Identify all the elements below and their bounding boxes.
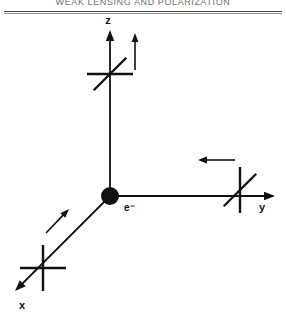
arrow-near-y-head xyxy=(198,157,207,164)
arrow-near-y xyxy=(198,157,235,164)
cross-on-x xyxy=(20,245,66,291)
field-arrows xyxy=(46,33,235,233)
axis-y-arrowhead xyxy=(264,192,275,200)
figure-page: WEAK LENSING AND POLARIZATION z y x xyxy=(0,0,286,324)
electron-origin: e⁻ xyxy=(101,187,135,213)
arrow-near-z-head xyxy=(132,33,139,42)
figure-svg: z y x e⁻ xyxy=(0,0,286,324)
arrow-near-x xyxy=(46,209,69,233)
axis-z-arrowhead xyxy=(106,30,114,41)
polarization-cross-markers xyxy=(20,58,256,291)
electron-label: e⁻ xyxy=(124,202,135,213)
axis-x-line xyxy=(19,196,110,287)
arrow-near-x-shaft xyxy=(46,214,64,233)
axis-x-label: x xyxy=(19,299,26,311)
electron-dot xyxy=(101,187,119,205)
cross-on-y xyxy=(224,167,257,213)
arrow-near-z xyxy=(132,33,139,70)
axis-z-label: z xyxy=(105,14,111,26)
axis-y: y xyxy=(110,192,275,213)
axis-y-label: y xyxy=(259,201,266,213)
coordinate-axes-figure: z y x e⁻ xyxy=(0,0,286,324)
axis-z: z xyxy=(105,14,114,196)
